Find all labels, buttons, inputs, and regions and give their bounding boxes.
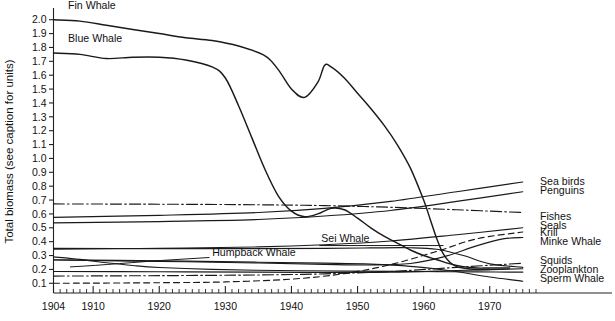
y-tick-label: 1.3 [32,111,47,123]
series-line-krill [54,232,523,283]
axes-layer [49,8,612,293]
curve-layer [54,20,523,284]
y-tick-label: 0.5 [32,221,47,233]
series-line-sea-birds [54,182,523,217]
x-tick-label: 1960 [412,300,436,312]
y-tick-label: 0.7 [32,194,47,206]
y-tick-label: 1.6 [32,69,47,81]
series-inline-label: Blue Whale [68,32,122,44]
series-line-fin-whale [54,20,490,270]
y-tick-label: 1.5 [32,83,47,95]
y-tick-label: 1.0 [32,152,47,164]
x-tick-label: 1970 [478,300,502,312]
series-inline-label: Humpback Whale [212,246,296,258]
x-tick-label: 1940 [280,300,304,312]
right-labels-layer: Sea birdsPenguinsFishesSealsKrillMinke W… [540,175,604,285]
y-tick-label: 1.1 [32,138,47,150]
y-tick-label: 2.0 [32,13,47,25]
y-tick-label: 0.2 [32,263,47,275]
y-tick-label: 0.9 [32,166,47,178]
series-inline-label: Fin Whale [68,0,116,11]
chart-root: 0.10.20.30.40.50.60.70.80.91.01.11.21.31… [0,0,615,321]
y-axis-title: Total biomass (see caption for units) [3,59,15,243]
biomass-line-chart: 0.10.20.30.40.50.60.70.80.91.01.11.21.31… [0,0,615,321]
series-right-label: Minke Whale [540,235,601,247]
series-right-label: Sperm Whale [540,272,604,284]
x-tick-label: 1930 [214,300,238,312]
y-tick-label: 0.8 [32,180,47,192]
y-tick-label: 1.7 [32,55,47,67]
inside-annotations-layer: Fin WhaleBlue WhaleHumpback WhaleSei Wha… [68,0,443,267]
y-tick-label: 0.4 [32,235,47,247]
y-tick-label: 0.1 [32,277,47,289]
series-right-label: Penguins [540,184,584,196]
y-tick-label: 0.3 [32,249,47,261]
x-tick-label: 1910 [81,300,105,312]
y-tick-label: 1.4 [32,97,47,109]
y-tick-label: 1.9 [32,27,47,39]
y-tick-label: 1.2 [32,124,47,136]
x-tick-label: 1950 [346,300,370,312]
x-tick-label: 1920 [148,300,172,312]
series-inline-label: Sei Whale [321,232,369,244]
y-tick-label: 1.8 [32,41,47,53]
y-axis-title-layer: Total biomass (see caption for units) [3,59,15,243]
x-tick-label: 1904 [42,300,66,312]
y-tick-label: 0.6 [32,208,47,220]
